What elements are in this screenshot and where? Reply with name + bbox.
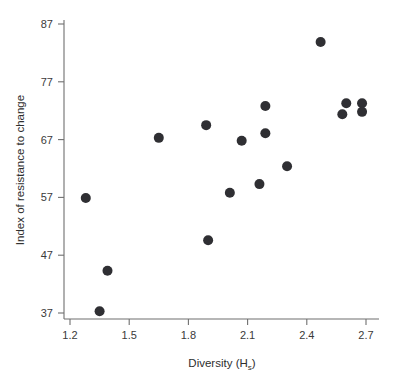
y-tick-label: 47 bbox=[41, 249, 53, 261]
plot-area: 374757677787 1.21.51.82.12.42.7 Diversit… bbox=[0, 0, 396, 384]
y-axis-ticks bbox=[58, 24, 64, 313]
x-axis-tick-labels: 1.21.51.82.12.42.7 bbox=[62, 329, 373, 341]
data-point bbox=[357, 107, 367, 117]
x-axis: 1.21.51.82.12.42.7 bbox=[62, 319, 379, 341]
x-tick-label: 1.8 bbox=[181, 329, 196, 341]
x-axis-title: Diversity (Hs) bbox=[188, 357, 255, 372]
data-point bbox=[237, 136, 247, 146]
y-axis: 374757677787 bbox=[41, 18, 64, 319]
data-point bbox=[203, 235, 213, 245]
x-tick-label: 2.1 bbox=[240, 329, 255, 341]
y-axis-title: Index of resistance to change bbox=[14, 95, 26, 245]
data-point bbox=[225, 188, 235, 198]
x-tick-label: 1.2 bbox=[62, 329, 77, 341]
data-point bbox=[260, 101, 270, 111]
data-points-layer bbox=[81, 37, 367, 316]
data-point bbox=[154, 133, 164, 143]
data-point bbox=[357, 98, 367, 108]
x-tick-label: 2.7 bbox=[358, 329, 373, 341]
x-tick-label: 1.5 bbox=[122, 329, 137, 341]
y-tick-label: 87 bbox=[41, 18, 53, 30]
y-tick-label: 37 bbox=[41, 307, 53, 319]
data-point bbox=[341, 98, 351, 108]
y-axis-tick-labels: 374757677787 bbox=[41, 18, 53, 319]
data-point bbox=[337, 109, 347, 119]
y-tick-label: 67 bbox=[41, 134, 53, 146]
x-axis-title-tail: ) bbox=[252, 357, 256, 369]
data-point bbox=[316, 37, 326, 47]
y-tick-label: 77 bbox=[41, 76, 53, 88]
y-tick-label: 57 bbox=[41, 191, 53, 203]
data-point bbox=[95, 306, 105, 316]
data-point bbox=[254, 179, 264, 189]
data-point bbox=[260, 128, 270, 138]
x-tick-label: 2.4 bbox=[299, 329, 314, 341]
data-point bbox=[102, 266, 112, 276]
scatter-chart: 374757677787 1.21.51.82.12.42.7 Diversit… bbox=[0, 0, 396, 384]
x-axis-ticks bbox=[70, 319, 366, 325]
x-axis-title-main: Diversity (H bbox=[188, 357, 247, 369]
data-point bbox=[282, 161, 292, 171]
data-point bbox=[81, 193, 91, 203]
data-point bbox=[201, 120, 211, 130]
